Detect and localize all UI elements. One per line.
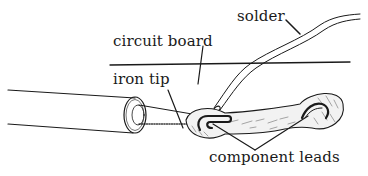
soldering-diagram: solder circuit board iron tip component … xyxy=(0,0,368,176)
circuit-board-leader xyxy=(198,46,203,84)
solder-leader xyxy=(286,20,300,34)
solder-label: solder xyxy=(237,9,285,24)
iron-tip-leader xyxy=(168,90,183,128)
circuit-board-line xyxy=(110,62,350,65)
component-leads-label: component leads xyxy=(209,150,340,165)
iron-tip-label: iron tip xyxy=(113,72,170,87)
circuit-board-label: circuit board xyxy=(113,34,213,49)
